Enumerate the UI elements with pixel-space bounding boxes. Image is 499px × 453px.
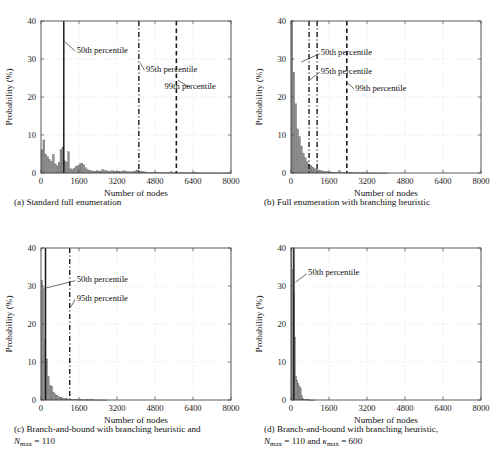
panel-a-bar-5 (51, 161, 53, 173)
panel-c-bar-9 (56, 395, 58, 400)
panel-c-caption-value: = 110 (32, 436, 55, 446)
panel-a-bar-15 (70, 169, 72, 173)
panel-a-bar-24 (87, 169, 89, 173)
panel-c-bar-5 (49, 385, 51, 400)
panel-c-yticklabel-20: 20 (27, 319, 36, 329)
panel-b-annotation-50th-percentile-label: 50th percentile (321, 47, 372, 57)
panel-b-plot-frame (291, 21, 481, 173)
panel-d-caption-value-kappa: = 600 (339, 436, 362, 446)
panel-a-yaxis-label: Probability (%) (4, 69, 14, 126)
panel-b-annotation-99th-percentile-leader (348, 83, 354, 89)
panel-a-yticklabel-0: 0 (32, 168, 36, 178)
panel-a-standard-full-enumeration: 016003200480064008000010203040Number of … (0, 0, 249, 226)
panel-b-caption: (b) Full enumeration with branching heur… (264, 196, 499, 208)
panel-d-yticklabel-30: 30 (277, 281, 286, 291)
panel-a-xticklabel-1600: 1600 (70, 176, 87, 186)
panel-a-bar-4 (49, 159, 51, 173)
panel-c-plot-group: 016003200480064008000010203040Number of … (4, 243, 240, 423)
panel-a-xticklabel-8000: 8000 (222, 176, 239, 186)
panel-a-bar-9 (58, 162, 60, 173)
panel-c-annotation-50th-percentile-leader (46, 281, 75, 288)
panel-c-bar-4 (48, 376, 50, 400)
figure-histogram-grid: 016003200480064008000010203040Number of … (0, 0, 499, 453)
panel-b-plot-group: 016003200480064008000010203040Number of … (254, 16, 490, 196)
panel-c-yticklabel-30: 30 (27, 281, 36, 291)
panel-b-bar-3 (297, 129, 299, 173)
panel-b-annotation-99th-percentile-label: 99th percentile (355, 83, 406, 93)
panel-c-caption-prefix: (c) (14, 424, 24, 434)
panel-a-bar-21 (81, 163, 83, 173)
panel-d-bar-7 (299, 386, 300, 400)
panel-a-bar-13 (66, 162, 68, 173)
panel-d-yticklabel-0: 0 (282, 395, 286, 405)
panel-b-yticklabel-10: 10 (277, 130, 286, 140)
panel-d-plot-group: 016003200480064008000010203040Number of … (254, 243, 490, 423)
panel-a-caption-prefix: (a) (14, 197, 24, 207)
panel-d-annotation-50th-percentile-leader (296, 274, 307, 282)
panel-a-bar-32 (102, 170, 104, 173)
panel-b-bar-6 (302, 153, 304, 173)
panel-a-yticklabel-20: 20 (27, 92, 36, 102)
panel-d-caption-subscript-max2: max (327, 440, 339, 447)
panel-b-xticklabel-3200: 3200 (358, 176, 375, 186)
panel-c-xticklabel-4800: 4800 (146, 403, 163, 413)
panel-c-xaxis-label: Number of nodes (104, 415, 168, 423)
panel-c-bar-7 (53, 392, 55, 400)
panel-c-yticklabel-40: 40 (27, 243, 36, 253)
panel-a-bar-3 (47, 157, 49, 173)
panel-a-bar-23 (85, 168, 87, 173)
panel-c-xticklabel-1600: 1600 (70, 403, 87, 413)
panel-c-bar-6 (51, 386, 53, 400)
panel-c-xticklabel-8000: 8000 (222, 403, 239, 413)
panel-b-chart: 016003200480064008000010203040Number of … (250, 0, 499, 196)
panel-d-caption-value-n: = 110 and (282, 436, 323, 446)
panel-c-branch-and-bound-nmax110: 016003200480064008000010203040Number of … (0, 227, 249, 453)
panel-a-plot-frame (41, 21, 231, 173)
panel-c-bar-10 (58, 396, 60, 400)
panel-c-yticklabel-10: 10 (27, 357, 36, 367)
panel-b-bar-12 (314, 168, 316, 173)
panel-d-bar-5 (297, 380, 298, 400)
panel-d-chart: 016003200480064008000010203040Number of … (250, 227, 499, 423)
panel-c-caption: (c) Branch-and-bound with branching heur… (14, 423, 252, 450)
panel-b-bar-2 (295, 104, 297, 173)
panel-c-caption-text: Branch-and-bound with branching heuristi… (26, 424, 200, 434)
panel-d-yticklabel-10: 10 (277, 357, 286, 367)
panel-a-xticklabel-0: 0 (39, 176, 43, 186)
panel-b-bar-1 (293, 72, 295, 173)
panel-b-xaxis-label: Number of nodes (354, 188, 418, 196)
panel-d-xticklabel-4800: 4800 (396, 403, 413, 413)
panel-c-chart: 016003200480064008000010203040Number of … (0, 227, 249, 423)
panel-a-plot-group: 016003200480064008000010203040Number of … (4, 16, 240, 196)
panel-b-yticklabel-30: 30 (277, 54, 286, 64)
panel-a-yticklabel-10: 10 (27, 130, 36, 140)
panel-b-bar-5 (301, 146, 303, 173)
panel-d-xticklabel-1600: 1600 (320, 403, 337, 413)
panel-b-full-enumeration-branching-heuristic: 016003200480064008000010203040Number of … (250, 0, 499, 226)
panel-b-xticklabel-0: 0 (289, 176, 293, 186)
panel-d-bar-8 (300, 388, 301, 400)
panel-d-bar-6 (298, 383, 299, 400)
panel-c-yaxis-label: Probability (%) (4, 296, 14, 353)
panel-d-annotation-50th-percentile-label: 50th percentile (308, 267, 359, 277)
panel-d-caption-text: Branch-and-bound with branching heuristi… (277, 424, 438, 434)
panel-a-bar-16 (71, 169, 73, 173)
panel-a-bar-10 (60, 149, 62, 173)
panel-c-annotation-50th-percentile-label: 50th percentile (77, 274, 128, 284)
panel-b-bar-7 (304, 158, 306, 173)
panel-d-yaxis-label: Probability (%) (254, 296, 264, 353)
panel-d-xticklabel-0: 0 (289, 403, 293, 413)
panel-d-yticklabel-40: 40 (277, 243, 286, 253)
panel-a-xaxis-label: Number of nodes (104, 188, 168, 196)
panel-a-bar-17 (73, 168, 75, 173)
panel-c-xticklabel-0: 0 (39, 403, 43, 413)
panel-d-bar-4 (296, 376, 297, 400)
panel-b-annotation-95th-percentile-leader (310, 72, 320, 80)
panel-c-annotation-95th-percentile-label: 95th percentile (77, 293, 128, 303)
panel-b-bar-10 (310, 166, 312, 173)
panel-a-bar-50 (136, 170, 138, 173)
panel-d-branch-and-bound-nmax110-kmax600: 016003200480064008000010203040Number of … (250, 227, 499, 453)
panel-d-caption-subscript-max: max (270, 440, 282, 447)
panel-a-xticklabel-4800: 4800 (146, 176, 163, 186)
panel-a-bar-1 (43, 140, 45, 173)
